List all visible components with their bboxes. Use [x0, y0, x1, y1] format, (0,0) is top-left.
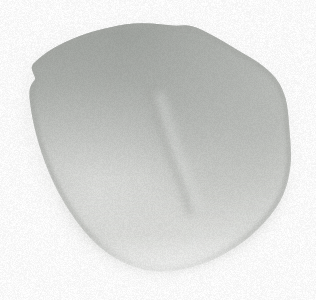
photograph-plate: Grayscale photograph of a rounded, irreg…: [0, 0, 316, 300]
artifact-photograph: [0, 0, 316, 300]
